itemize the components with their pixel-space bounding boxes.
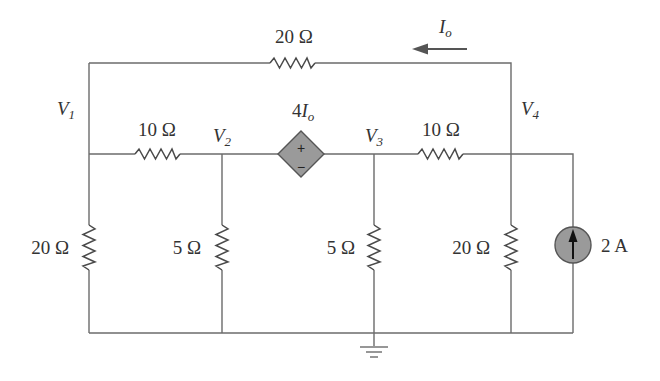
resistor-right-10ohm [418, 149, 463, 159]
circuit-diagram: + − 20 Ω 10 Ω 10 Ω 20 Ω 5 Ω 5 Ω 20 Ω 2 A… [0, 0, 660, 381]
resistor-shunt-v4-20ohm [505, 225, 517, 270]
resistor-shunt-v2-5ohm [216, 225, 228, 270]
label-dependent-source-4io: 4Io [292, 100, 315, 124]
wire-top-right [315, 63, 511, 225]
label-left-10ohm: 10 Ω [138, 119, 176, 140]
label-node-v3: V3 [365, 125, 384, 149]
label-node-v1: V1 [57, 98, 75, 122]
minus-sign: − [297, 159, 305, 175]
resistor-left-10ohm [135, 149, 180, 159]
label-current-source-2a: 2 A [601, 235, 628, 256]
current-source [555, 227, 591, 263]
arrow-left-icon [412, 44, 428, 55]
plus-sign: + [297, 140, 305, 156]
resistor-shunt-v1-20ohm [83, 225, 95, 270]
dependent-voltage-source: + − [278, 131, 324, 177]
label-shunt-v2-5ohm: 5 Ω [173, 237, 201, 258]
label-shunt-v3-5ohm: 5 Ω [327, 237, 355, 258]
label-shunt-v4-20ohm: 20 Ω [452, 237, 490, 258]
label-right-10ohm: 10 Ω [422, 119, 460, 140]
ground-icon [360, 347, 388, 357]
label-current-io: Io [438, 16, 452, 40]
resistor-shunt-v3-5ohm [368, 225, 380, 270]
label-top-20ohm: 20 Ω [275, 26, 313, 47]
label-shunt-v1-20ohm: 20 Ω [31, 237, 69, 258]
current-io-arrow [412, 44, 467, 55]
wire-10ohm-to-right [463, 154, 573, 227]
resistor-top-20ohm [270, 58, 315, 68]
label-node-v4: V4 [521, 98, 540, 122]
wires [89, 63, 573, 346]
label-node-v2: V2 [213, 125, 232, 149]
